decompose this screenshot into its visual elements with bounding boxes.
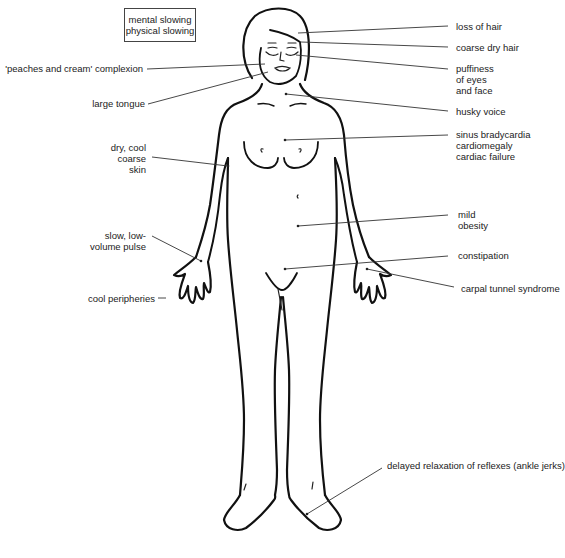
box-line-1: mental slowing	[129, 14, 192, 25]
label-puffiness: puffiness of eyes and face	[456, 63, 494, 96]
label-carpal-tunnel: carpal tunnel syndrome	[461, 283, 560, 294]
label-loss-of-hair: loss of hair	[456, 21, 502, 32]
label-husky-voice: husky voice	[456, 106, 506, 117]
hypothyroidism-diagram: mental slowing physical slowing loss of …	[0, 0, 565, 558]
leader-lines	[147, 26, 454, 514]
label-large-tongue: large tongue	[92, 98, 145, 109]
label-pulse: slow, low- volume pulse	[90, 230, 146, 252]
label-coarse-dry-hair: coarse dry hair	[456, 42, 519, 53]
label-complexion: 'peaches and cream' complexion	[5, 63, 143, 74]
mental-physical-slowing-box: mental slowing physical slowing	[124, 8, 196, 42]
label-cool-peripheries: cool peripheries	[88, 293, 155, 304]
label-constipation: constipation	[458, 250, 509, 261]
box-line-2: physical slowing	[126, 25, 195, 36]
label-mild-obesity: mild obesity	[458, 209, 488, 231]
label-cardiac: sinus bradycardia cardiomegaly cardiac f…	[456, 129, 530, 162]
label-dry-skin: dry, cool coarse skin	[111, 142, 146, 175]
label-delayed-reflexes: delayed relaxation of reflexes (ankle je…	[387, 460, 565, 471]
